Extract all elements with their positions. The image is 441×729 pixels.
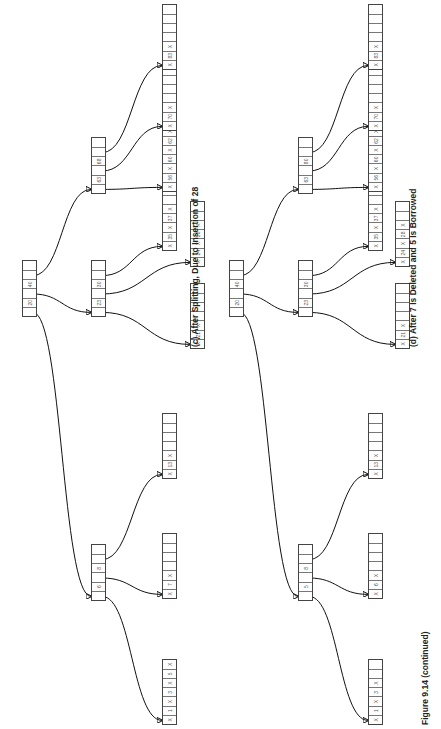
empty-cell bbox=[369, 669, 382, 678]
empty-cell bbox=[299, 545, 312, 554]
empty-cell bbox=[92, 270, 105, 279]
null-pointer-cell: X bbox=[163, 222, 176, 231]
null-pointer-cell: X bbox=[163, 41, 176, 50]
empty-cell bbox=[163, 32, 176, 41]
empty-cell bbox=[163, 423, 176, 432]
empty-cell bbox=[369, 543, 382, 552]
empty-cell bbox=[92, 591, 105, 600]
empty-cell bbox=[369, 32, 382, 41]
null-pointer-cell: X bbox=[163, 145, 176, 154]
key-cell: 62 bbox=[369, 136, 382, 145]
key-cell: 63 bbox=[299, 175, 312, 184]
key-cell: 68 bbox=[92, 156, 105, 165]
empty-cell bbox=[92, 288, 105, 297]
leaf-node: X13X bbox=[162, 413, 177, 479]
pointer-arrow bbox=[102, 474, 162, 559]
null-pointer-cell: X bbox=[163, 450, 176, 459]
empty-cell bbox=[369, 660, 382, 669]
empty-cell bbox=[92, 307, 105, 316]
empty-cell bbox=[299, 591, 312, 600]
pointer-arrow bbox=[309, 596, 368, 720]
pointer-arrow bbox=[309, 187, 368, 189]
key-cell: 35 bbox=[163, 232, 176, 241]
empty-cell bbox=[299, 184, 312, 193]
empty-cell bbox=[369, 423, 382, 432]
key-cell: 8 bbox=[92, 563, 105, 572]
key-cell: 37 bbox=[369, 213, 382, 222]
empty-cell bbox=[369, 23, 382, 32]
pointer-arrow bbox=[102, 578, 162, 594]
key-cell: 13 bbox=[369, 460, 382, 469]
leaf-node: X35X37X bbox=[368, 185, 383, 251]
pointer-arrow bbox=[102, 126, 162, 171]
caption-d: (d) After 7 Is Deleted and 5 Is Borrowed bbox=[408, 189, 418, 347]
null-pointer-cell: X bbox=[369, 60, 382, 69]
pointer-arrow bbox=[309, 578, 368, 594]
null-pointer-cell: X bbox=[369, 570, 382, 579]
pointer-arrow bbox=[33, 189, 91, 275]
leaf-node: X6X bbox=[368, 533, 383, 599]
empty-cell bbox=[299, 147, 312, 156]
empty-cell bbox=[299, 288, 312, 297]
null-pointer-cell: X bbox=[163, 715, 176, 724]
internal-node: 68 bbox=[91, 544, 106, 601]
empty-cell bbox=[23, 270, 36, 279]
key-cell: 62 bbox=[163, 136, 176, 145]
empty-cell bbox=[369, 414, 382, 423]
figure-label: Figure 9.14 (continued) bbox=[420, 631, 430, 725]
pointer-arrow bbox=[33, 294, 91, 312]
key-cell: 80 bbox=[299, 156, 312, 165]
key-cell: 20 bbox=[23, 298, 36, 307]
empty-cell bbox=[163, 84, 176, 93]
empty-cell bbox=[23, 288, 36, 297]
key-cell: 5 bbox=[163, 669, 176, 678]
internal-node: 2330 bbox=[91, 260, 106, 317]
key-cell: 35 bbox=[369, 232, 382, 241]
empty-cell bbox=[23, 307, 36, 316]
null-pointer-cell: X bbox=[163, 696, 176, 705]
empty-cell bbox=[369, 432, 382, 441]
key-cell: 40 bbox=[23, 279, 36, 288]
null-pointer-cell: X bbox=[163, 163, 176, 172]
key-cell: 3 bbox=[369, 687, 382, 696]
null-pointer-cell: X bbox=[369, 222, 382, 231]
key-cell: 40 bbox=[230, 279, 243, 288]
null-pointer-cell: X bbox=[163, 204, 176, 213]
null-pointer-cell: X bbox=[369, 696, 382, 705]
key-cell: 60 bbox=[163, 154, 176, 163]
null-pointer-cell: X bbox=[369, 589, 382, 598]
empty-cell bbox=[369, 14, 382, 23]
null-pointer-cell: X bbox=[369, 163, 382, 172]
leaf-node: X83X bbox=[162, 4, 177, 70]
leaf-node: X7X bbox=[162, 533, 177, 599]
key-cell: 56 bbox=[163, 173, 176, 182]
internal-node: 58 bbox=[298, 544, 313, 601]
internal-node: 6368 bbox=[91, 137, 106, 194]
empty-cell bbox=[163, 441, 176, 450]
empty-cell bbox=[163, 432, 176, 441]
key-cell: 63 bbox=[92, 175, 105, 184]
empty-cell bbox=[299, 138, 312, 147]
null-pointer-cell: X bbox=[369, 204, 382, 213]
pointer-arrow bbox=[309, 126, 368, 171]
leaf-node: X83X bbox=[368, 4, 383, 70]
empty-cell bbox=[369, 75, 382, 84]
root-node: 2040 bbox=[22, 260, 37, 317]
pointer-arrow bbox=[102, 312, 190, 344]
null-pointer-cell: X bbox=[369, 450, 382, 459]
empty-cell bbox=[230, 261, 243, 270]
empty-cell bbox=[369, 93, 382, 102]
empty-cell bbox=[299, 165, 312, 174]
leaf-node: X70X bbox=[162, 65, 177, 131]
leaf-node: X56X60X62X bbox=[368, 126, 383, 192]
empty-cell bbox=[369, 441, 382, 450]
empty-cell bbox=[92, 138, 105, 147]
empty-cell bbox=[163, 414, 176, 423]
empty-cell bbox=[369, 534, 382, 543]
null-pointer-cell: X bbox=[163, 678, 176, 687]
pointer-arrow bbox=[240, 312, 298, 596]
empty-cell bbox=[92, 165, 105, 174]
empty-cell bbox=[163, 23, 176, 32]
empty-cell bbox=[299, 307, 312, 316]
key-cell: 83 bbox=[369, 51, 382, 60]
